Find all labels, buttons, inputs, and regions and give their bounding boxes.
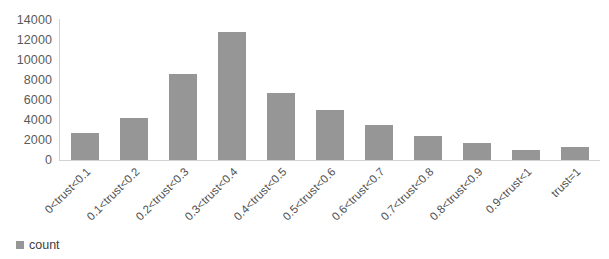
x-axis-tick-label: trust=1: [550, 166, 584, 200]
y-axis-tick-label: 14000: [17, 14, 52, 27]
y-axis-tick-label: 0: [45, 154, 52, 167]
y-axis-tick-label: 6000: [24, 94, 52, 107]
bar: [463, 143, 491, 160]
bar: [561, 147, 589, 160]
bar: [71, 133, 99, 160]
bar: [316, 110, 344, 160]
chart-legend: count: [16, 239, 60, 252]
bar-slot: [551, 20, 600, 160]
bar: [218, 32, 246, 160]
bar-chart: 14000120001000080006000400020000 0<trust…: [0, 0, 609, 259]
x-axis: 0<trust<0.10.1<trust<0.20.2<trust<0.30.3…: [60, 162, 600, 232]
bar: [512, 150, 540, 160]
legend-swatch-count: [16, 241, 24, 249]
bar-slot: [256, 20, 305, 160]
bar-slot: [502, 20, 551, 160]
bar-slot: [109, 20, 158, 160]
bar-slot: [60, 20, 109, 160]
plot-area: [60, 20, 600, 160]
bar: [365, 125, 393, 160]
y-axis-tick-label: 2000: [24, 134, 52, 147]
bar-slot: [453, 20, 502, 160]
bar: [267, 93, 295, 160]
x-axis-tick: 0.9<trust<1: [502, 162, 551, 232]
bar-slot: [207, 20, 256, 160]
y-axis-tick-label: 12000: [17, 34, 52, 47]
y-axis-tick-label: 10000: [17, 54, 52, 67]
x-axis-tick: trust=1: [551, 162, 600, 232]
bar-slot: [158, 20, 207, 160]
bar-slot: [355, 20, 404, 160]
bar: [169, 74, 197, 160]
y-axis-tick-label: 4000: [24, 114, 52, 127]
x-axis-line: [59, 160, 600, 161]
bar-slot: [404, 20, 453, 160]
bar-slot: [305, 20, 354, 160]
y-axis: 14000120001000080006000400020000: [0, 0, 56, 175]
bar: [120, 118, 148, 160]
y-axis-tick-label: 8000: [24, 74, 52, 87]
legend-label-count: count: [29, 239, 60, 252]
bar: [414, 136, 442, 160]
